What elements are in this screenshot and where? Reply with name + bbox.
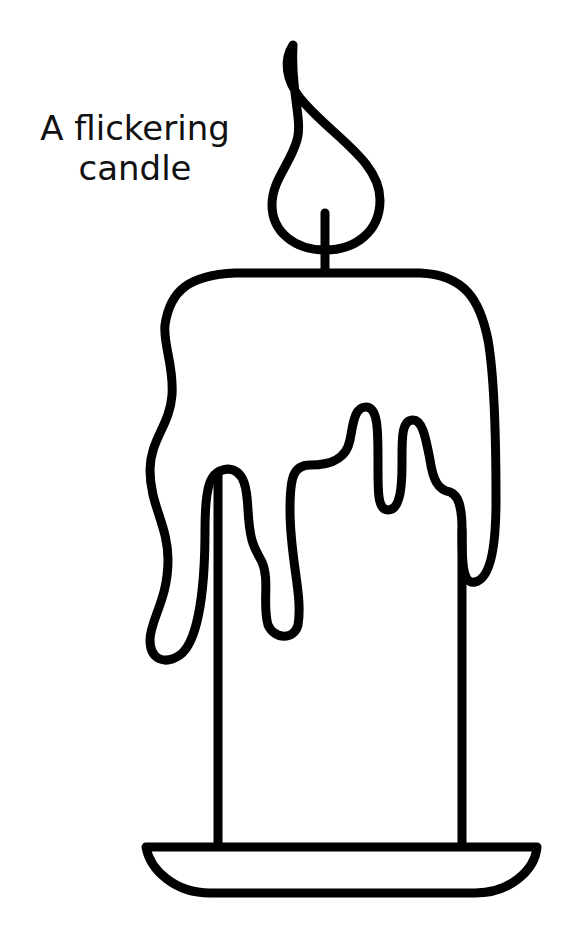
melting-wax-outline xyxy=(150,273,496,660)
coloring-page: A flickering candle xyxy=(0,0,585,942)
candle-dish xyxy=(146,847,537,893)
candle-illustration xyxy=(0,0,585,942)
